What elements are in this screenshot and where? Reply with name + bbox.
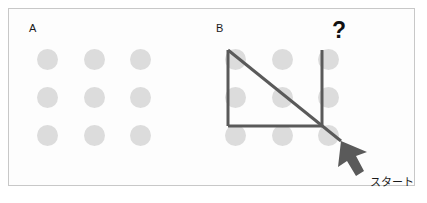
dot-a-r3c1 [37,125,58,146]
dot-grid-a [37,49,162,147]
dot-a-r2c2 [84,87,105,108]
dot-b-r3c3 [318,125,339,146]
dot-b-r1c2 [272,49,293,70]
dot-b-r2c1 [225,87,246,108]
dot-b-r1c3 [318,49,339,70]
figure-frame: A B ? スタート [8,8,415,186]
dot-b-r3c1 [225,125,246,146]
panel-label-a: A [29,23,37,34]
dot-a-r1c2 [84,49,105,70]
dot-b-r2c2 [272,87,293,108]
dot-a-r2c3 [130,87,151,108]
dot-a-r3c3 [130,125,151,146]
panel-label-b: B [216,23,224,34]
question-mark-annotation: ? [332,19,346,42]
start-label: スタート [370,177,414,188]
dot-grid-b [225,49,350,147]
dot-a-r2c1 [37,87,58,108]
dot-b-r1c1 [225,49,246,70]
dot-a-r1c1 [37,49,58,70]
dot-a-r3c2 [84,125,105,146]
dot-a-r1c3 [130,49,151,70]
dot-b-r3c2 [272,125,293,146]
dot-b-r2c3 [318,87,339,108]
